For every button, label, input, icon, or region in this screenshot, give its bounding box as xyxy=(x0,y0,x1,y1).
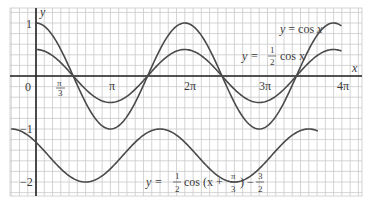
x-tick-2pi: 2π xyxy=(184,79,196,93)
svg-text:cos (x +: cos (x + xyxy=(184,175,223,189)
svg-text:3: 3 xyxy=(258,171,263,181)
svg-text:y =: y = xyxy=(241,49,258,63)
x-tick-pi-over-3-den: 3 xyxy=(58,88,63,98)
grid xyxy=(10,8,362,196)
cosine-graph: y x 0 π 3 π 2π 3π 4π 1 −1 −2 y = cos x y… xyxy=(0,0,366,204)
label-shifted-cos: y = 1 2 cos (x + π 3 ) − 3 2 xyxy=(145,171,264,194)
x-tick-3pi: 3π xyxy=(259,79,271,93)
svg-text:1: 1 xyxy=(175,171,180,181)
svg-text:2: 2 xyxy=(175,184,180,194)
svg-text:π: π xyxy=(231,171,236,181)
x-axis-label: x xyxy=(351,61,358,75)
y-tick-neg2: −2 xyxy=(20,175,33,189)
x-tick-4pi: 4π xyxy=(337,79,349,93)
svg-text:2: 2 xyxy=(270,57,275,67)
origin-label: 0 xyxy=(25,80,31,94)
svg-text:cos x: cos x xyxy=(280,49,305,63)
label-cos-x: y = cos x xyxy=(279,22,323,36)
y-tick-1: 1 xyxy=(26,17,32,31)
svg-text:) −: ) − xyxy=(240,175,254,189)
y-tick-neg1: −1 xyxy=(20,122,33,136)
y-axis-label: y xyxy=(39,5,46,19)
svg-text:1: 1 xyxy=(270,45,275,55)
svg-text:3: 3 xyxy=(231,184,236,194)
x-tick-pi: π xyxy=(109,79,115,93)
svg-text:y =: y = xyxy=(145,175,162,189)
x-tick-pi-over-3-num: π xyxy=(57,78,62,88)
svg-text:2: 2 xyxy=(258,184,263,194)
curve-3 xyxy=(11,129,318,182)
